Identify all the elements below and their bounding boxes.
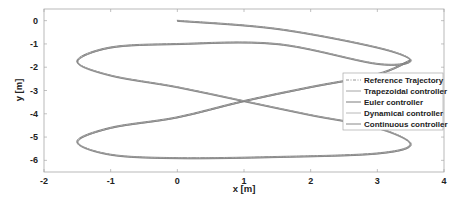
legend: Reference TrajectoryTrapezoidal controll… bbox=[343, 73, 448, 130]
y-tick-label: -4 bbox=[30, 109, 38, 119]
y-axis-label: y [m] bbox=[13, 79, 24, 102]
legend-entry: Continuous controller bbox=[364, 120, 448, 129]
x-tick-label: -2 bbox=[40, 176, 48, 186]
legend-entry: Reference Trajectory bbox=[364, 76, 444, 85]
legend-entry: Euler controller bbox=[364, 98, 423, 107]
trajectory-chart: -2-101234 0-1-2-3-4-5-6 x [m] y [m] Refe… bbox=[0, 0, 464, 206]
legend-entry: Dynamical controller bbox=[364, 109, 443, 118]
x-tick-label: 3 bbox=[375, 176, 380, 186]
x-tick-label: 0 bbox=[175, 176, 180, 186]
x-tick-label: 2 bbox=[308, 176, 313, 186]
y-tick-label: -6 bbox=[30, 155, 38, 165]
x-tick-label: -1 bbox=[107, 176, 115, 186]
y-tick-label: -1 bbox=[30, 39, 38, 49]
y-tick-label: -3 bbox=[30, 86, 38, 96]
x-tick-label: 4 bbox=[441, 176, 446, 186]
x-axis-label: x [m] bbox=[233, 183, 256, 194]
legend-entry: Trapezoidal controller bbox=[364, 87, 447, 96]
y-tick-label: 0 bbox=[33, 16, 38, 26]
y-tick-label: -2 bbox=[30, 62, 38, 72]
y-tick-label: -5 bbox=[30, 132, 38, 142]
